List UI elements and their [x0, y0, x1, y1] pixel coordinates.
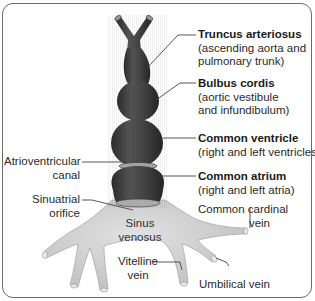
label-truncus-arteriosus: Truncus arteriosus (ascending aorta and …: [198, 28, 306, 69]
sa-orifice-line2: orifice: [4, 207, 80, 221]
label-common-ventricle: Common ventricle (right and left ventric…: [198, 132, 315, 159]
label-sinus-venosus: Sinus venosus: [115, 217, 165, 244]
ventricle-line1: (right and left ventricles): [198, 146, 315, 160]
atrium-title: Common atrium: [198, 170, 295, 184]
label-common-cardinal-vein: Common cardinal vein: [198, 203, 284, 230]
vitelline-line1: Vitelline: [116, 255, 160, 269]
label-common-atrium: Common atrium (right and left atria): [198, 170, 295, 197]
bulbus-line1: (aortic vestibule: [198, 91, 289, 105]
cardinal-line1: Common cardinal: [198, 203, 284, 217]
umbilical-line1: Umbilical vein: [199, 278, 270, 292]
bulbus-line2: and infundibulum): [198, 104, 289, 118]
heart-tube-shape: [108, 14, 168, 208]
ventricle-title: Common ventricle: [198, 132, 315, 146]
av-canal-line2: canal: [4, 169, 80, 183]
bulbus-title: Bulbus cordis: [198, 77, 289, 91]
label-vitelline-vein: Vitelline vein: [116, 255, 160, 282]
sinus-line1: Sinus: [115, 217, 165, 231]
truncus-line1: (ascending aorta and: [198, 42, 306, 56]
truncus-title: Truncus arteriosus: [198, 28, 306, 42]
sinus-line2: venosus: [115, 231, 165, 245]
cardinal-line2: vein: [198, 217, 284, 231]
label-bulbus-cordis: Bulbus cordis (aortic vestibule and infu…: [198, 77, 289, 118]
sa-orifice-line1: Sinuatrial: [4, 193, 80, 207]
truncus-line2: pulmonary trunk): [198, 55, 306, 69]
vitelline-line2: vein: [116, 269, 160, 283]
label-sinuatrial-orifice: Sinuatrial orifice: [4, 193, 80, 220]
atrium-line1: (right and left atria): [198, 184, 295, 198]
av-canal-line1: Atrioventricular: [4, 155, 80, 169]
label-atrioventricular-canal: Atrioventricular canal: [4, 155, 80, 182]
label-umbilical-vein: Umbilical vein: [199, 278, 270, 292]
